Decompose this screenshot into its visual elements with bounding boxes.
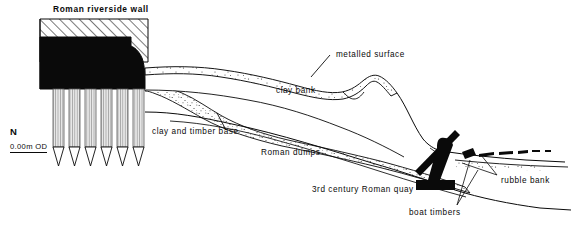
north-marker-label: N — [10, 127, 17, 137]
leader-metalled-surface — [311, 55, 330, 77]
roman-quay-label: 3rd century Roman quay — [312, 186, 414, 194]
wall-solid-core — [40, 37, 145, 89]
datum-level-label: 0.00m OD — [10, 143, 47, 153]
boat-timber-fragment — [462, 148, 476, 159]
ground-surface-line — [397, 93, 441, 151]
rubble-dash — [545, 150, 551, 152]
pile — [133, 89, 144, 166]
rubble-bank-label: rubble bank — [501, 177, 550, 185]
pile — [53, 89, 64, 166]
pile — [69, 89, 80, 166]
wall-pile-group — [53, 89, 144, 166]
pile — [85, 89, 96, 166]
section-drawing-figure: Roman riverside wall metalled surface cl… — [0, 0, 571, 246]
rubble-dash — [499, 151, 513, 155]
rubble-dash — [518, 150, 528, 154]
metalled-surface-label: metalled surface — [336, 51, 405, 59]
roman-riverside-wall — [40, 19, 148, 166]
pile — [117, 89, 128, 166]
wall-title-label: Roman riverside wall — [53, 5, 149, 13]
rubble-dash — [532, 150, 540, 152]
pile — [101, 89, 112, 166]
archaeological-section-svg — [0, 0, 571, 246]
quay-post-and-baseplate — [416, 138, 455, 190]
roman-dumps-label: Roman dumps — [261, 149, 320, 157]
clay-bank-label: clay bank — [276, 87, 316, 95]
strata-group — [145, 67, 571, 246]
roman-quay-structure — [415, 130, 476, 190]
clay-and-timber-base-label: clay and timber base — [152, 128, 239, 136]
boat-timbers-label: boat timbers — [409, 209, 461, 217]
